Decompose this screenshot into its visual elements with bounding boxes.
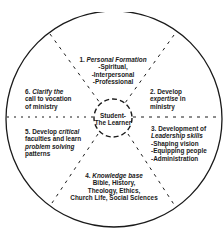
segment-5-number: 5. [25, 128, 30, 135]
segment-3-item: -Administration [151, 155, 207, 162]
segment-2-in: in [180, 95, 186, 102]
segment-3-title: Leadership skills [151, 132, 207, 139]
segment-personal-formation: 1. Personal Formation -Spiritual, -Inter… [70, 56, 156, 86]
segment-4-number: 4. [85, 172, 90, 179]
segment-6-title: Clarify the [32, 88, 63, 95]
segment-1-title: Personal Formation [87, 56, 147, 63]
segment-6-line1: 6. Clarify the [25, 88, 72, 95]
segment-2-number: 2. [150, 88, 155, 95]
segment-5-line1: 5. Develop critical [25, 128, 81, 135]
segment-clarify-call: 6. Clarify the call to vocation of minis… [25, 88, 72, 110]
segment-6-line2: call to vocation [25, 95, 72, 102]
segment-5-title: critical [59, 128, 80, 135]
segment-develop-expertise: 2. Develop expertise in ministry [150, 88, 186, 110]
segment-5-pre: Develop [32, 128, 57, 135]
segment-6-number: 6. [25, 88, 30, 95]
segment-2-pre: Develop [157, 88, 182, 95]
segment-3-item: -Equipping people [151, 147, 207, 154]
segment-4-item: Bible, History, [56, 179, 172, 186]
center-line2: The Learner [94, 119, 132, 126]
segment-2-line3: ministry [150, 103, 186, 110]
segment-critical-faculties: 5. Develop critical faculties and learn … [25, 128, 81, 158]
segment-5-title2: problem solving [25, 143, 81, 150]
segment-leadership-skills: 3. Development of Leadership skills -Sha… [151, 125, 207, 162]
segment-6-line3: of ministry [25, 103, 72, 110]
segment-3-line1: 3. Development of [151, 125, 207, 132]
segment-1-number: 1. [79, 56, 84, 63]
segment-3-number: 3. [151, 125, 156, 132]
center-label: Student- The Learner [94, 112, 132, 127]
segment-4-heading: 4. Knowledge base [56, 172, 172, 179]
segment-1-heading: 1. Personal Formation [70, 56, 156, 63]
segment-1-item: -Spiritual, [70, 63, 156, 70]
segment-2-line2: expertise in [150, 95, 186, 102]
segment-1-item: -Professional [70, 78, 156, 85]
segment-4-item: Church Life, Social Sciences [56, 194, 172, 201]
segment-4-title: Knowledge base [92, 172, 142, 179]
segment-1-item: -Interpersonal [70, 71, 156, 78]
segment-3-pre: Development of [158, 125, 206, 132]
segment-4-item: Theology, Ethics, [56, 187, 172, 194]
segment-5-line4: patterns [25, 150, 81, 157]
segment-knowledge-base: 4. Knowledge base Bible, History, Theolo… [56, 172, 172, 202]
center-line1: Student- [94, 112, 132, 119]
segment-3-item: -Shaping vision [151, 140, 207, 147]
segment-2-title: expertise [150, 95, 178, 102]
segment-5-line2: faculties and learn [25, 135, 81, 142]
segment-2-line1: 2. Develop [150, 88, 186, 95]
